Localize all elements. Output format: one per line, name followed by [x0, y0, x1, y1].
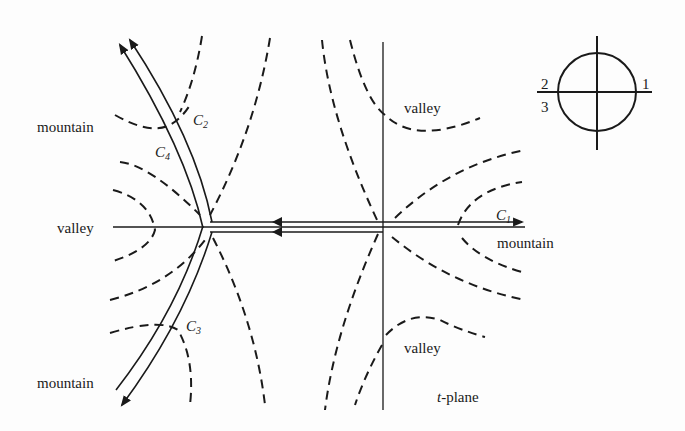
contour-c3	[122, 232, 212, 405]
label-c4: C4	[155, 144, 170, 162]
t-plane-diagram: mountain valley mountain valley mountain…	[0, 0, 685, 431]
label-mountain-lower-left: mountain	[37, 375, 94, 391]
integration-contours	[116, 40, 522, 405]
diagram-canvas: mountain valley mountain valley mountain…	[0, 0, 685, 431]
label-valley-upper-right: valley	[404, 100, 441, 116]
axes	[113, 42, 525, 410]
level-curves	[110, 36, 525, 410]
label-mountain-right: mountain	[497, 235, 554, 251]
contour-c4	[120, 45, 203, 228]
label-valley-left: valley	[57, 220, 94, 236]
inset-label-1: 1	[642, 76, 650, 92]
inset-label-2: 2	[541, 76, 549, 92]
label-mountain-upper-left: mountain	[37, 119, 94, 135]
label-valley-lower-right: valley	[404, 340, 441, 356]
inset-label-3: 3	[541, 99, 549, 115]
inset-circle-diagram	[537, 36, 652, 150]
label-c2: C2	[193, 112, 208, 130]
label-c1: C1	[496, 207, 511, 225]
contour-c2	[130, 40, 212, 222]
label-t-plane: t-plane	[437, 389, 479, 405]
label-c3: C3	[186, 318, 201, 336]
